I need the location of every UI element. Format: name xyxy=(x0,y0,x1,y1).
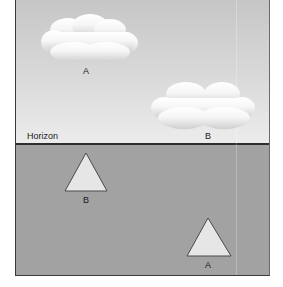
cloud-a-label: A xyxy=(83,66,89,76)
cloud-b-icon xyxy=(150,76,256,132)
triangle-b-label: B xyxy=(83,195,89,205)
cloud-a-icon xyxy=(40,10,140,66)
cloud-b-label: B xyxy=(205,131,211,141)
triangle-a-icon xyxy=(185,216,233,258)
triangle-b-icon xyxy=(63,151,109,193)
diagram-frame: A B Horizon B A xyxy=(15,0,270,276)
scan-artifact-line xyxy=(236,0,237,275)
horizon-label: Horizon xyxy=(27,131,58,141)
triangle-a-label: A xyxy=(205,260,211,270)
